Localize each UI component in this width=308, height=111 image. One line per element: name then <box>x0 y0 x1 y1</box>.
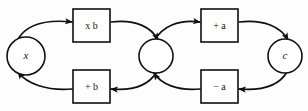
subtract-a-label: − a <box>213 81 226 92</box>
edge-mid-to-add-b <box>111 73 156 89</box>
node-mid-junction[interactable] <box>139 39 173 73</box>
node-x[interactable]: x <box>7 37 45 75</box>
edge-mul-b-to-mid <box>111 21 158 40</box>
edge-sub-a-to-mid <box>154 73 200 89</box>
node-c[interactable]: c <box>268 39 302 73</box>
node-mid-circle <box>139 39 173 73</box>
multiply-b-label: x b <box>85 20 98 31</box>
node-add-a-box[interactable]: + a <box>201 9 238 42</box>
node-c-label: c <box>283 49 288 61</box>
edge-c-to-sub-a <box>239 72 287 89</box>
edge-mid-to-add-a <box>155 21 200 40</box>
node-multiply-b-box[interactable]: x b <box>73 9 110 42</box>
node-subtract-a-box[interactable]: − a <box>201 70 238 103</box>
edge-add-a-to-c <box>239 21 288 40</box>
add-a-label: + a <box>213 20 226 31</box>
diagram-canvas: x c x b + b + a − a <box>0 0 308 111</box>
node-x-label: x <box>23 49 29 61</box>
add-b-label: + b <box>85 81 98 92</box>
node-add-b-box[interactable]: + b <box>73 70 110 103</box>
flow-cycle-diagram: x c x b + b + a − a <box>0 0 308 111</box>
